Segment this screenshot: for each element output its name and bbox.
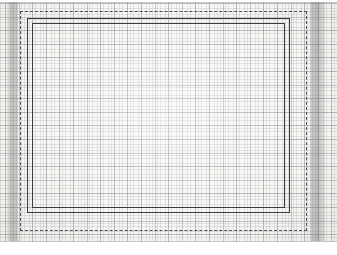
- solid-rectangle-inner: [32, 23, 285, 208]
- page-edge-top: [0, 2, 337, 3]
- scan-canvas: [0, 0, 337, 255]
- page-edge-bottom: [0, 241, 337, 242]
